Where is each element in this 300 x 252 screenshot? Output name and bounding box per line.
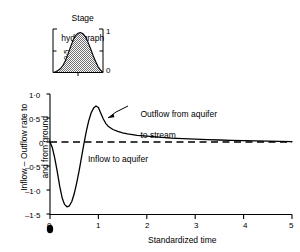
hydrograph-figure: Stage hydrograph 0·5 1 0 1·0 0·5 0 –0·5 … [0, 0, 300, 252]
plot-vector-layer [0, 0, 300, 252]
inset-chart [53, 29, 103, 76]
main-axes [47, 94, 293, 233]
data-curve-inflow-outflow [50, 106, 292, 207]
inset-area-fill [53, 33, 103, 73]
outflow-annotation-arrowhead [108, 114, 114, 118]
origin-dot-marker [47, 225, 53, 233]
